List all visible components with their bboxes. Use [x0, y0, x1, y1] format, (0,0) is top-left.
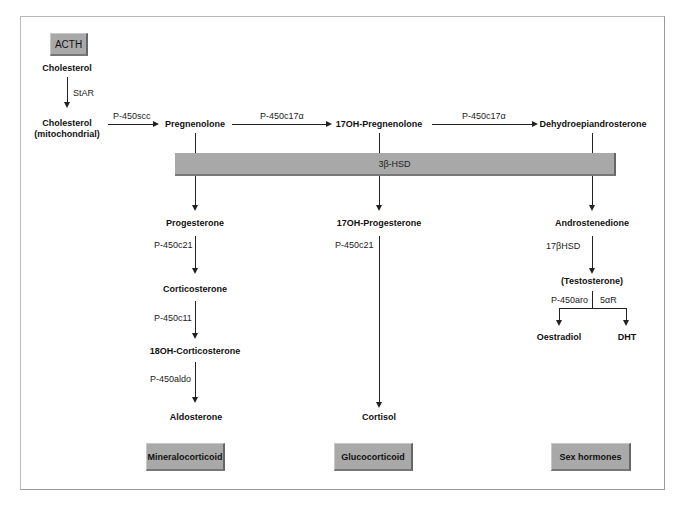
enzyme-17bhsd: 17βHSD [546, 241, 580, 252]
enzyme-p450aldo: P-450aldo [150, 374, 191, 385]
acth-box: ACTH [50, 33, 88, 56]
arrow-to-17oh-progesterone-line [379, 176, 380, 206]
arrow-p450scc-line [108, 124, 155, 125]
class-glucocorticoid: Glucocorticoid [334, 443, 413, 471]
connector-dhea [592, 133, 593, 153]
arrow-to-androstenedione-line [592, 176, 593, 206]
arrow-star-line [67, 77, 68, 104]
arrow-17bhsd-head [589, 268, 595, 274]
node-progesterone: Progesterone [166, 218, 224, 229]
arrow-5ar-head [623, 320, 629, 326]
class-mineralocorticoid: Mineralocorticoid [146, 443, 225, 471]
arrow-p450scc-head [153, 121, 159, 127]
arrow-p450aldo-line [195, 362, 196, 399]
arrow-p450c11-head [192, 333, 198, 339]
node-pregnenolone: Pregnenolone [165, 119, 225, 130]
node-18oh-corticosterone: 18OH-Corticosterone [150, 346, 241, 357]
enzyme-p450c11: P-450c11 [154, 313, 192, 324]
arrow-p450c17a-1-line [232, 124, 327, 125]
node-cholesterol-mito-2: (mitochondrial) [34, 129, 100, 140]
node-corticosterone: Corticosterone [163, 284, 227, 295]
enzyme-star: StAR [73, 88, 94, 99]
arrow-p450aldo-head [192, 397, 198, 403]
enzyme-3b-hsd-bar: 3β-HSD [175, 153, 616, 176]
node-17oh-progesterone: 17OH-Progesterone [337, 218, 422, 229]
arrow-p450c21-glu-line [379, 236, 380, 403]
arrow-p450c11-line [195, 301, 196, 335]
enzyme-p450scc: P-450scc [113, 111, 151, 122]
class-sex-hormones: Sex hormones [551, 443, 631, 471]
arrow-to-progesterone-head [192, 205, 198, 211]
arrow-p450c21-min-line [195, 236, 196, 270]
enzyme-3b-hsd-label: 3β-HSD [378, 159, 410, 169]
arrow-p450aro-head [556, 320, 562, 326]
node-dht: DHT [618, 332, 637, 343]
branch-bar [559, 308, 626, 309]
arrow-p450c17a-1-head [326, 121, 332, 127]
branch-stem [592, 291, 593, 309]
arrow-star-head [64, 102, 70, 108]
node-oestradiol: Oestradiol [537, 332, 582, 343]
diagram-frame [20, 16, 665, 490]
arrow-17bhsd-line [592, 236, 593, 270]
connector-17oh-pregnenolone [379, 133, 380, 153]
arrow-to-androstenedione-head [589, 205, 595, 211]
enzyme-p450c21-glu: P-450c21 [335, 240, 374, 251]
arrow-p450c21-glu-head [376, 402, 382, 408]
arrow-p450c21-min-head [192, 268, 198, 274]
node-17oh-pregnenolone: 17OH-Pregnenolone [336, 119, 423, 130]
node-cholesterol-mito-1: Cholesterol [42, 118, 92, 129]
enzyme-p450c17a-2: P-450c17α [462, 111, 506, 122]
node-cortisol: Cortisol [362, 412, 396, 423]
enzyme-p450c17a-1: P-450c17α [260, 111, 304, 122]
enzyme-5ar: 5αR [600, 295, 617, 306]
arrow-p450c17a-2-line [432, 124, 533, 125]
node-aldosterone: Aldosterone [170, 412, 223, 423]
enzyme-p450aro: P-450aro [551, 295, 588, 306]
arrow-to-progesterone-line [195, 176, 196, 206]
node-testosterone: (Testosterone) [561, 276, 623, 287]
arrow-p450c17a-2-head [532, 121, 538, 127]
arrow-to-17oh-progesterone-head [376, 205, 382, 211]
node-dhea: Dehydroepiandrosterone [539, 119, 646, 130]
node-androstenedione: Androstenedione [555, 218, 629, 229]
node-cholesterol: Cholesterol [42, 63, 92, 74]
connector-pregnenolone [195, 133, 196, 153]
enzyme-p450c21-min: P-450c21 [154, 240, 193, 251]
